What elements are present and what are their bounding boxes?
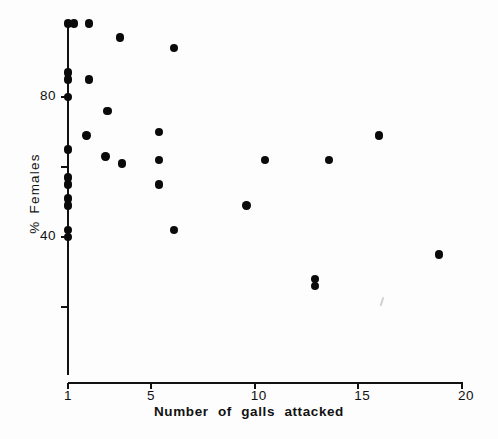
data-point (70, 19, 78, 27)
data-point (82, 131, 90, 139)
data-point (311, 282, 319, 290)
data-point (103, 107, 111, 115)
data-point (64, 180, 72, 188)
data-point (101, 152, 109, 160)
data-point (155, 156, 163, 164)
scatter-plot-figure: 8040 15101520 Number of galls attacked %… (0, 0, 498, 439)
x-tick-label-20: 20 (458, 388, 474, 403)
y-tick-60 (61, 166, 67, 168)
x-axis-title: Number of galls attacked (0, 404, 498, 419)
x-tick-label-10: 10 (251, 388, 267, 403)
data-point (118, 159, 126, 167)
data-point (435, 250, 443, 258)
data-point (64, 93, 72, 101)
data-point (64, 233, 72, 241)
x-tick-label-15: 15 (354, 388, 370, 403)
data-point (64, 145, 72, 153)
data-point (325, 156, 333, 164)
data-point (375, 131, 383, 139)
data-point (116, 33, 124, 41)
data-point (155, 128, 163, 136)
data-point (261, 156, 269, 164)
data-point (170, 44, 178, 52)
data-point (64, 75, 72, 83)
paper-speck-artifact (380, 297, 385, 306)
data-point (155, 180, 163, 188)
y-tick-20 (61, 306, 67, 308)
data-point (85, 19, 93, 27)
x-tick-label-1: 1 (64, 388, 72, 403)
x-axis-line (68, 382, 463, 384)
data-point (242, 201, 250, 209)
y-axis-title: % Females (27, 114, 42, 274)
x-tick-label-5: 5 (147, 388, 155, 403)
data-point (64, 201, 72, 209)
data-point (85, 75, 93, 83)
y-tick-label-80: 80 (10, 88, 56, 103)
data-point (170, 226, 178, 234)
